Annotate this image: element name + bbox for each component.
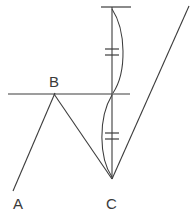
vertex-label-b: B [49, 74, 59, 89]
geometry-figure: A B C [0, 0, 192, 219]
ray-a-to-b [13, 93, 55, 191]
upper-congruence-arc [112, 9, 123, 93]
ray-c-to-upper-right [112, 6, 189, 179]
geometry-canvas [0, 0, 192, 219]
vertex-label-a: A [13, 196, 23, 211]
lower-congruence-arc [102, 95, 112, 177]
segment-b-to-c [54, 94, 112, 179]
vertex-label-c: C [106, 196, 117, 211]
